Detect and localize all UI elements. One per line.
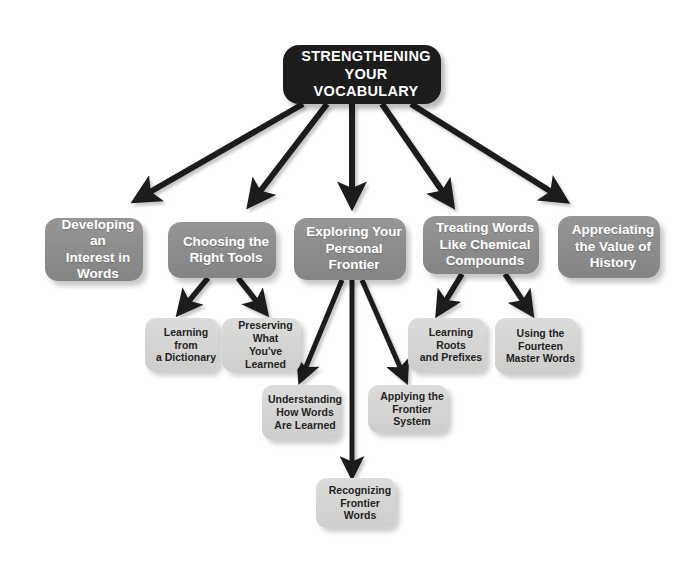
recognizing-frontier-line-1: Recognizing <box>320 484 400 497</box>
node-choosing-tools-label: Choosing the Right Tools <box>168 234 276 267</box>
edge-choosing-tools-to-learning-dictionary <box>184 278 208 307</box>
edge-exploring-frontier-to-understanding-words <box>303 280 342 374</box>
root-line-3: VOCABULARY <box>287 83 445 101</box>
treating-words-connectors <box>442 274 527 307</box>
learning-dictionary-line-1: Learning from <box>149 326 223 352</box>
understanding-words-line-1: Understanding <box>262 393 348 406</box>
node-choosing-tools[interactable]: Choosing the Right Tools <box>168 222 276 278</box>
root-line-2: YOUR <box>287 66 445 84</box>
applying-frontier-line-2: Frontier System <box>372 403 452 429</box>
node-developing-interest-label: Developing an Interest in Words <box>45 217 143 283</box>
node-developing-interest[interactable]: Developing an Interest in Words <box>45 218 143 281</box>
node-applying-frontier-label: Applying the Frontier System <box>368 390 448 428</box>
exploring-frontier-connectors <box>303 280 403 469</box>
node-recognizing-frontier-label: Recognizing Frontier Words <box>316 484 396 522</box>
fourteen-master-line-1: Using the <box>499 327 582 340</box>
learning-roots-line-1: Learning Roots <box>412 326 490 352</box>
node-understanding-words[interactable]: Understanding How Words Are Learned <box>262 385 340 440</box>
node-root[interactable]: STRENGTHENING YOUR VOCABULARY <box>283 45 441 104</box>
understanding-words-line-3: Are Learned <box>262 419 348 432</box>
learning-roots-line-2: and Prefixes <box>412 351 490 364</box>
developing-interest-line-2: Interest in <box>49 250 147 266</box>
node-exploring-frontier-label: Exploring Your Personal Frontier <box>294 224 406 273</box>
choosing-tools-connectors <box>184 278 261 307</box>
node-applying-frontier[interactable]: Applying the Frontier System <box>368 385 448 433</box>
learning-dictionary-line-2: a Dictionary <box>149 351 223 364</box>
diagram-canvas: STRENGTHENING YOUR VOCABULARY Developing… <box>0 0 699 561</box>
preserving-learned-line-2: You've Learned <box>226 345 305 371</box>
developing-interest-line-3: Words <box>49 266 147 282</box>
node-treating-words[interactable]: Treating Words Like Chemical Compounds <box>423 216 539 274</box>
treating-words-line-1: Treating Words <box>427 220 543 236</box>
appreciating-history-line-3: History <box>562 255 664 271</box>
node-root-label: STRENGTHENING YOUR VOCABULARY <box>283 48 441 101</box>
appreciating-history-line-1: Appreciating <box>562 222 664 238</box>
node-learning-roots[interactable]: Learning Roots and Prefixes <box>408 318 486 372</box>
node-learning-dictionary-label: Learning from a Dictionary <box>145 326 219 364</box>
edge-root-to-choosing-tools <box>255 104 327 198</box>
node-learning-dictionary[interactable]: Learning from a Dictionary <box>145 318 219 372</box>
exploring-frontier-line-1: Exploring Your <box>298 224 410 240</box>
root-connectors <box>143 104 558 198</box>
edge-treating-words-to-fourteen-master <box>505 274 527 307</box>
node-appreciating-history-label: Appreciating the Value of History <box>558 222 660 271</box>
fourteen-master-line-3: Master Words <box>499 352 582 365</box>
node-appreciating-history[interactable]: Appreciating the Value of History <box>558 216 660 278</box>
treating-words-line-3: Compounds <box>427 253 543 269</box>
node-recognizing-frontier[interactable]: Recognizing Frontier Words <box>316 478 396 528</box>
choosing-tools-line-2: Right Tools <box>172 250 280 266</box>
node-fourteen-master-label: Using the Fourteen Master Words <box>495 327 578 365</box>
preserving-learned-line-1: Preserving What <box>226 319 305 345</box>
node-fourteen-master[interactable]: Using the Fourteen Master Words <box>495 318 578 374</box>
node-preserving-learned-label: Preserving What You've Learned <box>222 319 301 370</box>
exploring-frontier-line-3: Frontier <box>298 257 410 273</box>
treating-words-line-2: Like Chemical <box>427 237 543 253</box>
node-exploring-frontier[interactable]: Exploring Your Personal Frontier <box>294 218 406 280</box>
node-preserving-learned[interactable]: Preserving What You've Learned <box>222 318 301 372</box>
edge-choosing-tools-to-preserving-learned <box>238 278 261 307</box>
developing-interest-line-1: Developing an <box>49 217 147 250</box>
recognizing-frontier-line-2: Frontier Words <box>320 497 400 523</box>
root-line-1: STRENGTHENING <box>287 48 445 66</box>
exploring-frontier-line-2: Personal <box>298 241 410 257</box>
node-understanding-words-label: Understanding How Words Are Learned <box>258 393 344 431</box>
node-treating-words-label: Treating Words Like Chemical Compounds <box>423 220 539 269</box>
edge-exploring-frontier-to-applying-frontier <box>362 280 403 374</box>
fourteen-master-line-2: Fourteen <box>499 340 582 353</box>
node-learning-roots-label: Learning Roots and Prefixes <box>408 326 486 364</box>
appreciating-history-line-2: the Value of <box>562 239 664 255</box>
applying-frontier-line-1: Applying the <box>372 390 452 403</box>
understanding-words-line-2: How Words <box>262 406 348 419</box>
choosing-tools-line-1: Choosing the <box>172 234 280 250</box>
edge-root-to-developing-interest <box>143 104 303 196</box>
edge-treating-words-to-learning-roots <box>442 274 462 307</box>
